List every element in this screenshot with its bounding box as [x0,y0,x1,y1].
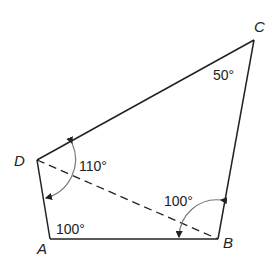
angle-label-abd: 100° [164,193,193,209]
vertex-label-a: A [36,240,47,257]
vertex-label-b: B [223,234,233,251]
angle-label-c: 50° [213,67,234,83]
quadrilateral-diagram: D A B C 110° 100° 100° 50° [0,0,272,267]
vertex-label-d: D [14,152,25,169]
edge-da [37,160,50,239]
angle-label-adb: 110° [79,158,107,174]
edge-cd [37,40,254,160]
vertex-label-c: C [254,18,265,35]
angle-arc-d [46,143,76,198]
angle-label-a: 100° [56,221,85,237]
